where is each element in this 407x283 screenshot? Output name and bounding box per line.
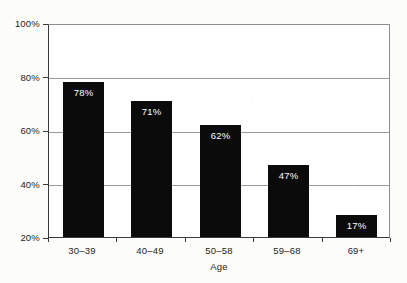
x-tick-mark (322, 238, 323, 242)
bar-value-label: 47% (268, 170, 309, 181)
bar-value-label: 71% (131, 106, 172, 117)
x-tick-mark (116, 238, 117, 242)
x-tick-mark (253, 238, 254, 242)
y-tick-label: 80% (0, 72, 40, 83)
x-axis-title: Age (48, 261, 390, 272)
plot-area: 78%71%62%47%17% (48, 24, 390, 238)
x-tick-label: 69+ (322, 245, 390, 256)
bar: 47% (268, 165, 309, 237)
bar: 17% (336, 215, 377, 237)
x-tick-label: 59–68 (253, 245, 321, 256)
x-tick-label: 50–58 (185, 245, 253, 256)
bar: 78% (63, 82, 104, 237)
y-tick-label: 100% (0, 18, 40, 29)
x-tick-mark (48, 238, 49, 242)
x-tick-label: 40–49 (116, 245, 184, 256)
x-tick-mark (185, 238, 186, 242)
x-tick-label: 30–39 (48, 245, 116, 256)
gridline (49, 78, 389, 79)
y-tick-label: 40% (0, 179, 40, 190)
y-axis: 20%40%60%80%100% (0, 24, 48, 238)
bar-value-label: 17% (336, 220, 377, 231)
bar: 71% (131, 101, 172, 237)
bar-chart: 20%40%60%80%100% 78%71%62%47%17% 30–3940… (0, 0, 407, 283)
y-tick-label: 60% (0, 125, 40, 136)
y-tick-label: 20% (0, 232, 40, 243)
x-tick-mark (390, 238, 391, 242)
bar-value-label: 78% (63, 87, 104, 98)
bar: 62% (200, 125, 241, 237)
bar-value-label: 62% (200, 130, 241, 141)
